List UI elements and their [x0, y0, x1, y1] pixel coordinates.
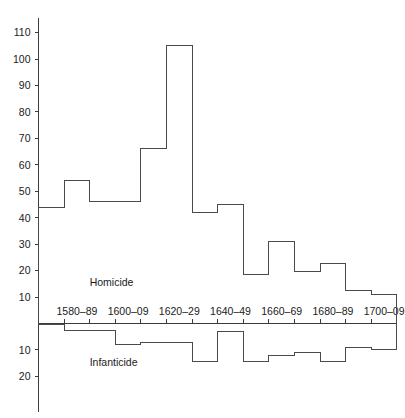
- y-tick-label-upper: 20: [19, 264, 31, 276]
- y-tick-label-upper: 90: [19, 79, 31, 91]
- y-tick-label-upper: 100: [13, 53, 31, 65]
- y-tick-label-upper: 30: [19, 238, 31, 250]
- y-tick-label-lower: 20: [19, 370, 31, 382]
- y-tick-label-upper: 110: [14, 26, 31, 38]
- x-tick-label: 1660–69: [261, 305, 302, 317]
- y-axis-ticks-lower: [35, 350, 39, 376]
- x-tick-label: 1620–29: [159, 305, 200, 317]
- series-annotations: Homicide Infanticide: [90, 276, 138, 367]
- y-axis-tick-labels-lower: 1020: [19, 344, 31, 382]
- y-tick-label-upper: 60: [19, 159, 31, 171]
- x-axis-ticks: [39, 319, 397, 324]
- back-to-back-step-histogram: 110100908070605040302010 1020 1580–89160…: [0, 0, 405, 418]
- x-tick-label: 1640–49: [210, 305, 251, 317]
- y-axis-tick-labels-upper: 110100908070605040302010: [13, 26, 31, 303]
- y-tick-label-upper: 50: [19, 185, 31, 197]
- y-tick-label-upper: 10: [19, 291, 31, 303]
- chart-container: 110100908070605040302010 1020 1580–89160…: [0, 0, 405, 418]
- y-tick-label-upper: 70: [19, 132, 31, 144]
- x-tick-label: 1580–89: [56, 305, 97, 317]
- x-tick-label: 1600–09: [108, 305, 149, 317]
- y-tick-label-upper: 40: [19, 212, 31, 224]
- homicide-series-label: Homicide: [90, 276, 134, 288]
- x-tick-label: 1680–89: [312, 305, 353, 317]
- y-axis: 110100908070605040302010 1020: [13, 18, 39, 412]
- infanticide-series-label: Infanticide: [90, 356, 138, 368]
- y-tick-label-upper: 80: [19, 106, 31, 118]
- y-tick-label-lower: 10: [19, 344, 31, 356]
- x-tick-label: 1700–09: [364, 305, 405, 317]
- x-axis-tick-labels: 1580–891600–091620–291640–491660–691680–…: [56, 305, 404, 317]
- y-axis-ticks-upper: [35, 33, 39, 298]
- x-axis: 1580–891600–091620–291640–491660–691680–…: [39, 305, 405, 324]
